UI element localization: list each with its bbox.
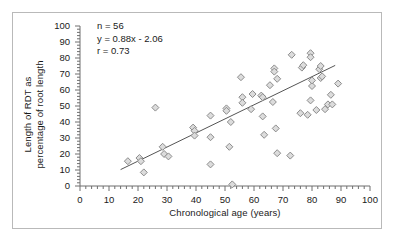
data-point-marker [191,132,198,139]
data-point-marker [329,101,336,108]
data-point-marker [229,181,236,188]
data-point-marker [239,99,246,106]
data-point-marker [259,113,266,120]
x-axis-tick-label: 40 [183,194,209,205]
data-point-marker [159,143,166,150]
y-axis-tick-label: 80 [44,52,70,63]
data-point-marker [297,110,304,117]
x-axis-tick-label: 80 [299,194,325,205]
y-axis-tick-label: 30 [44,132,70,143]
data-point-marker [272,125,279,132]
y-axis-tick-label: 90 [44,36,70,47]
data-point-marker [288,51,295,58]
y-axis-tick-label: 0 [44,180,70,191]
x-axis-tick-label: 0 [67,194,93,205]
x-axis-tick-label: 50 [212,194,238,205]
data-point-marker [313,107,320,114]
y-axis-tick-label: 10 [44,164,70,175]
y-axis-title-line2: percentage of root length [33,30,45,200]
data-point-marker [152,104,159,111]
annotation-regression-equation: y = 0.88x - 2.06 [97,33,163,46]
x-axis-tick-label: 90 [328,194,354,205]
data-point-marker [237,74,244,81]
annotation-sample-size: n = 56 [97,20,163,33]
y-axis-title-line1: Length of RDT as [22,30,34,200]
x-axis-tick-label: 10 [96,194,122,205]
data-point-marker [274,150,281,157]
statistics-annotation: n = 56 y = 0.88x - 2.06 r = 0.73 [97,20,163,58]
data-point-marker [335,80,342,87]
y-axis-tick-label: 60 [44,84,70,95]
data-point-marker [249,91,256,98]
figure-container: n = 56 y = 0.88x - 2.06 r = 0.73 Chronol… [0,0,395,242]
data-point-marker [269,99,276,106]
annotation-correlation: r = 0.73 [97,45,163,58]
data-point-marker [304,111,311,118]
data-point-marker [140,169,147,176]
y-axis-title: Length of RDT as percentage of root leng… [22,30,45,200]
data-point-marker [124,158,131,165]
y-axis-tick-label: 100 [44,20,70,31]
data-point-marker [261,131,268,138]
data-point-marker [207,112,214,119]
x-axis-tick-label: 20 [125,194,151,205]
data-point-marker [207,134,214,141]
data-point-marker [207,161,214,168]
data-point-marker [307,97,314,104]
x-axis-tick-label: 30 [154,194,180,205]
x-axis-title: Chronological age (years) [80,207,370,218]
y-axis-tick-label: 20 [44,148,70,159]
data-point-marker [248,106,255,113]
regression-trendline [121,65,336,169]
data-point-marker [266,82,273,89]
y-axis-tick-label: 50 [44,100,70,111]
y-axis-tick-label: 40 [44,116,70,127]
data-point-marker [287,152,294,159]
x-axis-tick-label: 70 [270,194,296,205]
x-axis-tick-label: 60 [241,194,267,205]
data-point-marker [227,119,234,126]
x-axis-tick-label: 100 [357,194,383,205]
data-point-marker [226,143,233,150]
data-point-marker [274,75,281,82]
data-point-marker [327,91,334,98]
y-axis-tick-label: 70 [44,68,70,79]
